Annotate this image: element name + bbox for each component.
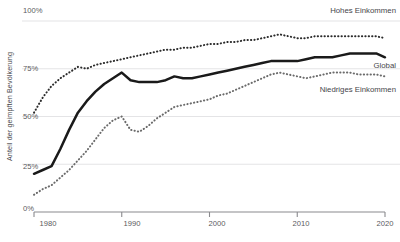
series-lines-group xyxy=(34,34,385,194)
series-label-low-income: Niedriges Einkommen xyxy=(320,85,396,94)
series-label-high-income: Hohes Einkommen xyxy=(330,6,396,15)
y-tick-label-25: 25% xyxy=(23,162,38,171)
series-label-global: Global xyxy=(373,61,396,70)
y-tick-label-0: 0% xyxy=(23,204,34,213)
x-tick-label-1990: 1990 xyxy=(124,219,141,228)
x-tick-label-1980: 1980 xyxy=(40,219,57,228)
vaccination-coverage-chart: Anteil der geimpften Bevölkerung 100% 75… xyxy=(0,0,400,242)
x-tick-marks-group xyxy=(34,212,385,217)
series-line-global xyxy=(34,53,385,173)
x-tick-label-2020: 2020 xyxy=(377,219,394,228)
x-tick-label-2010: 2010 xyxy=(293,219,310,228)
y-tick-label-100: 100% xyxy=(23,6,42,15)
y-tick-label-50: 50% xyxy=(23,112,38,121)
y-tick-label-75: 75% xyxy=(23,64,38,73)
x-tick-label-2000: 2000 xyxy=(209,219,226,228)
chart-plot-area xyxy=(0,0,400,242)
